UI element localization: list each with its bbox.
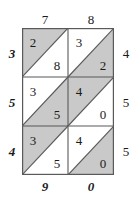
- right-label-row-2: 5: [118, 145, 134, 158]
- top-label-col-0: 7: [37, 13, 53, 26]
- bottom-label-col-0: 9: [37, 180, 53, 193]
- triangle-grid-puzzle: 7 8 3 5 4 4 5 5 9 0: [0, 0, 137, 202]
- puzzle-grid: 2 8 3 2 3 5 4 0 3 5 4 0: [22, 28, 114, 175]
- bottom-label-col-1: 0: [83, 180, 99, 193]
- left-label-row-2: 4: [4, 145, 20, 158]
- left-label-row-1: 5: [4, 96, 20, 109]
- left-label-row-0: 3: [4, 47, 20, 60]
- top-label-col-1: 8: [83, 13, 99, 26]
- right-label-row-0: 4: [118, 47, 134, 60]
- right-label-row-1: 5: [118, 96, 134, 109]
- grid-svg: [22, 28, 114, 175]
